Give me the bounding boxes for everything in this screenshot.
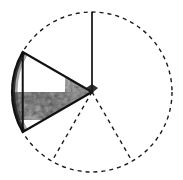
- sector-diagram-svg: [0, 0, 183, 180]
- figure-root: [0, 0, 183, 180]
